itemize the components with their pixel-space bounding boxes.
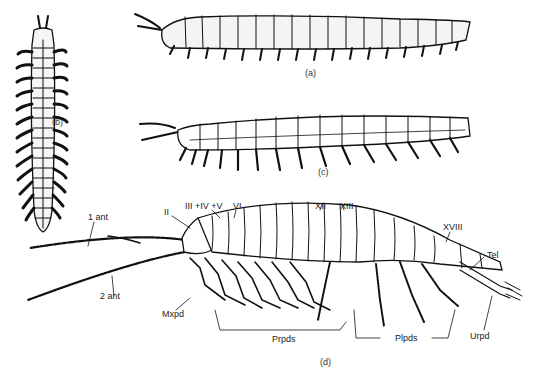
label-segments-iii-iv-v: III +IV +V xyxy=(185,201,223,211)
label-1st-antenna: 1 ant xyxy=(88,212,108,222)
figure: (a) (b) (c) (d) 1 ant 2 ant II III +IV +… xyxy=(0,0,542,380)
label-pereiopods: Prpds xyxy=(272,334,296,344)
label-uropod: Urpd xyxy=(470,331,490,341)
label-segment-vi: VI xyxy=(233,201,242,211)
caption-a: (a) xyxy=(305,68,316,78)
label-segment-ii: II xyxy=(164,207,169,217)
label-maxilliped: Mxpd xyxy=(162,309,184,319)
caption-b: (b) xyxy=(52,117,63,127)
specimen-c xyxy=(140,115,470,170)
label-2nd-antenna: 2 ant xyxy=(100,291,120,301)
specimen-a xyxy=(135,14,470,60)
label-segment-xviii: XVIII xyxy=(443,222,463,232)
caption-d: (d) xyxy=(320,357,331,367)
illustration xyxy=(0,0,542,380)
label-pleopods: Plpds xyxy=(395,333,418,343)
caption-c: (c) xyxy=(318,167,329,177)
label-segment-xiii: XIII xyxy=(340,201,354,211)
label-segment-xii: XII xyxy=(315,201,326,211)
label-telson: Tel xyxy=(487,250,499,260)
